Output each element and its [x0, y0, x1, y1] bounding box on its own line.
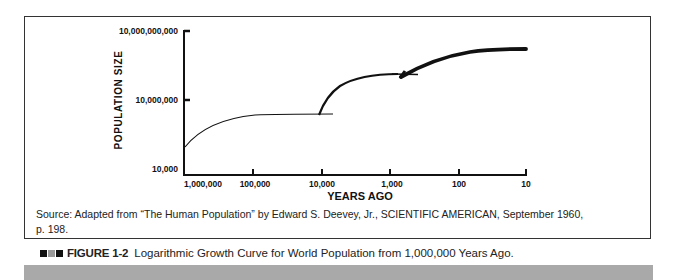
caption-marker-square-icon: [56, 250, 63, 257]
chart-plot: [0, 0, 679, 280]
caption-marker-square-icon: [48, 250, 55, 257]
caption-text: Logarithmic Growth Curve for World Popul…: [134, 247, 514, 259]
bottom-gray-bar: [24, 265, 653, 280]
y-tick-label: 10,000,000,000: [58, 26, 178, 36]
figure-label: FIGURE 1-2: [67, 247, 128, 259]
figure-caption: FIGURE 1-2Logarithmic Growth Curve for W…: [40, 247, 514, 259]
x-tick-label: 1,000: [357, 179, 427, 189]
caption-marker-square-icon: [40, 250, 47, 257]
series-toolmaking-curve: [185, 114, 333, 147]
x-tick-label: 100,000: [220, 179, 290, 189]
source-line-2: p. 198.: [36, 222, 636, 237]
x-tick-label: 100: [424, 179, 494, 189]
x-axis-title: YEARS AGO: [320, 190, 400, 202]
x-tick-label: 10: [491, 179, 561, 189]
x-tick-label: 10,000: [287, 179, 357, 189]
series-agricultural-curve: [319, 74, 398, 115]
y-axis-title: POPULATION SIZE: [113, 51, 124, 150]
y-tick-label: 10,000: [58, 164, 178, 174]
source-line-1: Source: Adapted from “The Human Populati…: [36, 207, 636, 222]
series-industrial-curve: [401, 49, 526, 77]
source-note: Source: Adapted from “The Human Populati…: [36, 207, 636, 237]
